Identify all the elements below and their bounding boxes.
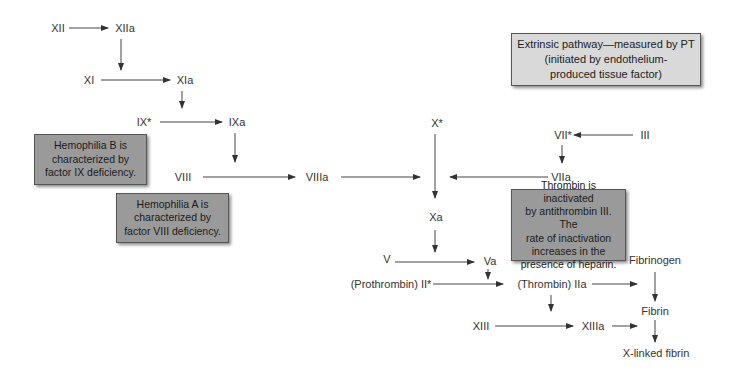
note-line: Thrombin is inactivated <box>516 179 621 205</box>
factor-xa: Xa <box>429 211 442 223</box>
factor-xiiia: XIIIa <box>582 320 605 332</box>
factor-xiia: XIIa <box>115 22 135 34</box>
note-line: by antithrombin III. The <box>516 205 621 231</box>
factor-vii: VII* <box>554 129 572 141</box>
extrinsic-pathway-note: Extrinsic pathway—measured by PT (initia… <box>511 33 701 86</box>
factor-xi: XI <box>84 74 94 86</box>
note-line: Hemophilia B is <box>45 139 136 153</box>
thrombin-inactivation-note: Thrombin is inactivated by antithrombin … <box>511 189 626 261</box>
note-line: factor IX deficiency. <box>45 166 136 180</box>
factor-va: Va <box>484 255 497 267</box>
note-line: Extrinsic pathway—measured by PT <box>517 37 694 52</box>
note-line: rate of inactivation <box>516 232 621 245</box>
factor-xiii: XIII <box>473 320 490 332</box>
note-line: characterized by <box>45 153 136 167</box>
factor-viii: VIII <box>175 171 192 183</box>
x-linked-fibrin: X-linked fibrin <box>623 347 690 359</box>
note-line: Hemophilia A is <box>124 198 221 212</box>
factor-v: V <box>383 253 390 265</box>
factor-ix: IX* <box>137 116 152 128</box>
note-line: produced tissue factor) <box>517 67 694 82</box>
fibrin: Fibrin <box>641 305 669 317</box>
factor-viiia: VIIIa <box>306 171 329 183</box>
factor-thrombin: (Thrombin) IIa <box>517 278 586 290</box>
factor-xii: XII <box>51 22 64 34</box>
note-line: (initiated by endothelium- <box>517 52 694 67</box>
note-line: increases in the <box>516 245 621 258</box>
note-line: factor VIII deficiency. <box>124 225 221 239</box>
note-line: presence of heparin. <box>516 258 621 271</box>
note-line: characterized by <box>124 211 221 225</box>
hemophilia-a-note: Hemophilia A is characterized by factor … <box>116 193 229 243</box>
fibrinogen: Fibrinogen <box>629 254 681 266</box>
factor-x: X* <box>431 117 443 129</box>
factor-xia: XIa <box>177 74 194 86</box>
factor-prothrombin: (Prothrombin) II* <box>351 278 432 290</box>
factor-iii: III <box>640 129 649 141</box>
factor-ixa: IXa <box>229 116 246 128</box>
hemophilia-b-note: Hemophilia B is characterized by factor … <box>34 134 147 185</box>
